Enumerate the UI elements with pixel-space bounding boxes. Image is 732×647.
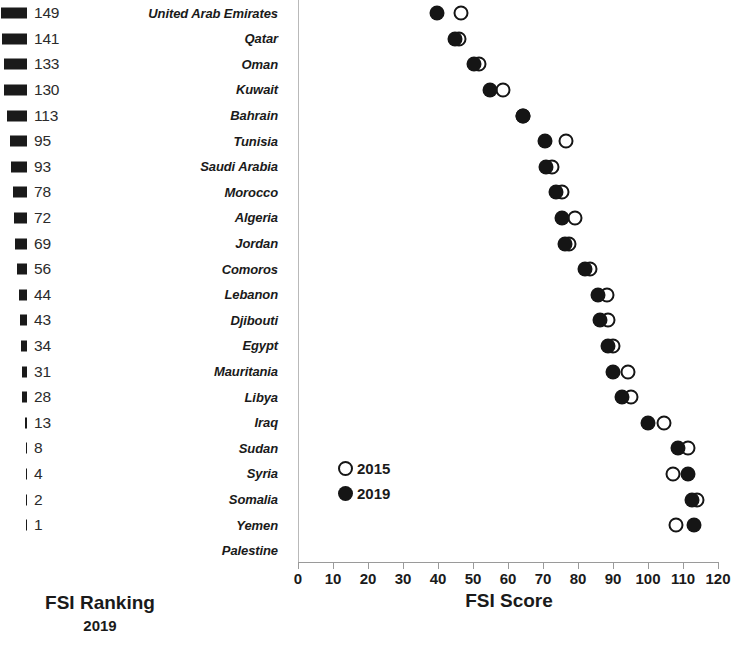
- ranking-bar-cell: [0, 512, 28, 538]
- data-point-2015: [669, 518, 684, 533]
- ranking-bar: [20, 315, 28, 326]
- country-label: Libya: [74, 390, 286, 405]
- ranking-row: 31Mauritania: [0, 359, 286, 385]
- country-label: Yemen: [74, 518, 286, 533]
- ranking-bar-cell: [0, 0, 28, 26]
- ranking-number: 93: [28, 158, 74, 176]
- ranking-bar-cell: [0, 359, 28, 385]
- ranking-number: 8: [28, 439, 74, 457]
- fsi-ranking-panel: 149United Arab Emirates141Qatar133Oman13…: [0, 0, 286, 580]
- x-axis-tick: [578, 563, 579, 569]
- ranking-row: 133Oman: [0, 52, 286, 78]
- ranking-bar-cell: [0, 26, 28, 52]
- legend-label-2015: 2015: [357, 460, 390, 477]
- data-point-2019: [467, 57, 482, 72]
- ranking-number: 28: [28, 388, 74, 406]
- x-axis-tick: [683, 563, 684, 569]
- ranking-number: 4: [28, 465, 74, 483]
- x-axis-tick-label: 90: [605, 570, 622, 587]
- filled-circle-icon: [338, 486, 353, 501]
- data-point-2015: [454, 6, 469, 21]
- data-point-2019: [516, 108, 531, 123]
- x-axis-tick-label: 40: [430, 570, 447, 587]
- ranking-number: 78: [28, 183, 74, 201]
- ranking-row: 72Algeria: [0, 205, 286, 231]
- data-point-2019: [671, 441, 686, 456]
- country-label: Mauritania: [74, 364, 286, 379]
- ranking-bar: [22, 392, 27, 403]
- data-point-2019: [554, 211, 569, 226]
- open-circle-icon: [338, 461, 353, 476]
- x-axis-tick-label: 100: [635, 570, 660, 587]
- country-label: Qatar: [74, 31, 286, 46]
- ranking-row: 34Egypt: [0, 333, 286, 359]
- ranking-row: 1Yemen: [0, 512, 286, 538]
- x-axis-tick: [333, 563, 334, 569]
- legend-item-2015: 2015: [338, 456, 448, 481]
- x-axis-tick-label: 50: [465, 570, 482, 587]
- ranking-bar: [26, 443, 27, 454]
- data-point-2015: [567, 211, 582, 226]
- x-axis-tick: [368, 563, 369, 569]
- ranking-bar: [7, 110, 27, 121]
- chart-legend: 2015 2019: [338, 456, 448, 506]
- ranking-bar-cell: [0, 410, 28, 436]
- country-label: Djibouti: [74, 313, 286, 328]
- ranking-row: 130Kuwait: [0, 77, 286, 103]
- ranking-bar-cell: [0, 461, 28, 487]
- country-label: Somalia: [74, 492, 286, 507]
- ranking-caption-title: FSI Ranking: [0, 592, 200, 614]
- x-axis-tick: [613, 563, 614, 569]
- ranking-bar-cell: [0, 231, 28, 257]
- ranking-bar: [17, 264, 27, 275]
- data-point-2019: [641, 415, 656, 430]
- ranking-bar-cell: [0, 308, 28, 334]
- ranking-row: 141Qatar: [0, 26, 286, 52]
- x-axis-tick: [473, 563, 474, 569]
- ranking-row: 69Jordan: [0, 231, 286, 257]
- ranking-bar: [26, 468, 27, 479]
- data-point-2019: [680, 467, 695, 482]
- data-point-2015: [496, 83, 511, 98]
- country-label: Algeria: [74, 210, 286, 225]
- ranking-bar: [21, 340, 27, 351]
- ranking-bar-cell: [0, 333, 28, 359]
- ranking-row: 28Libya: [0, 384, 286, 410]
- x-axis-tick-label: 0: [294, 570, 302, 587]
- x-axis-tick-label: 110: [671, 570, 695, 587]
- ranking-bar: [25, 417, 27, 428]
- ranking-number: 141: [28, 30, 74, 48]
- ranking-number: 69: [28, 235, 74, 253]
- ranking-number: 95: [28, 132, 74, 150]
- data-point-2019: [548, 185, 563, 200]
- ranking-row: 4Syria: [0, 461, 286, 487]
- legend-item-2019: 2019: [338, 481, 448, 506]
- x-axis-tick-label: 70: [535, 570, 552, 587]
- country-label: Oman: [74, 57, 286, 72]
- data-point-2019: [448, 31, 463, 46]
- ranking-bar: [13, 187, 27, 198]
- data-point-2019: [606, 364, 621, 379]
- country-label: Tunisia: [74, 134, 286, 149]
- data-point-2019: [483, 83, 498, 98]
- country-label: Bahrain: [74, 108, 286, 123]
- country-label: Saudi Arabia: [74, 159, 286, 174]
- ranking-number: 113: [28, 107, 74, 125]
- x-axis-tick-label: 20: [360, 570, 377, 587]
- ranking-bar: [2, 33, 27, 44]
- country-label: Morocco: [74, 185, 286, 200]
- ranking-row: 43Djibouti: [0, 308, 286, 334]
- ranking-number: 13: [28, 414, 74, 432]
- x-axis-tick-label: 60: [500, 570, 517, 587]
- ranking-bar-cell: [0, 103, 28, 129]
- x-axis-tick: [718, 563, 719, 569]
- country-label: Sudan: [74, 441, 286, 456]
- ranking-bar-cell: [0, 154, 28, 180]
- country-label: Kuwait: [74, 82, 286, 97]
- ranking-number: 72: [28, 209, 74, 227]
- ranking-bar: [11, 161, 27, 172]
- ranking-bar: [26, 520, 27, 531]
- x-axis-tick-label: 120: [705, 570, 730, 587]
- ranking-row: 13Iraq: [0, 410, 286, 436]
- x-axis-tick: [403, 563, 404, 569]
